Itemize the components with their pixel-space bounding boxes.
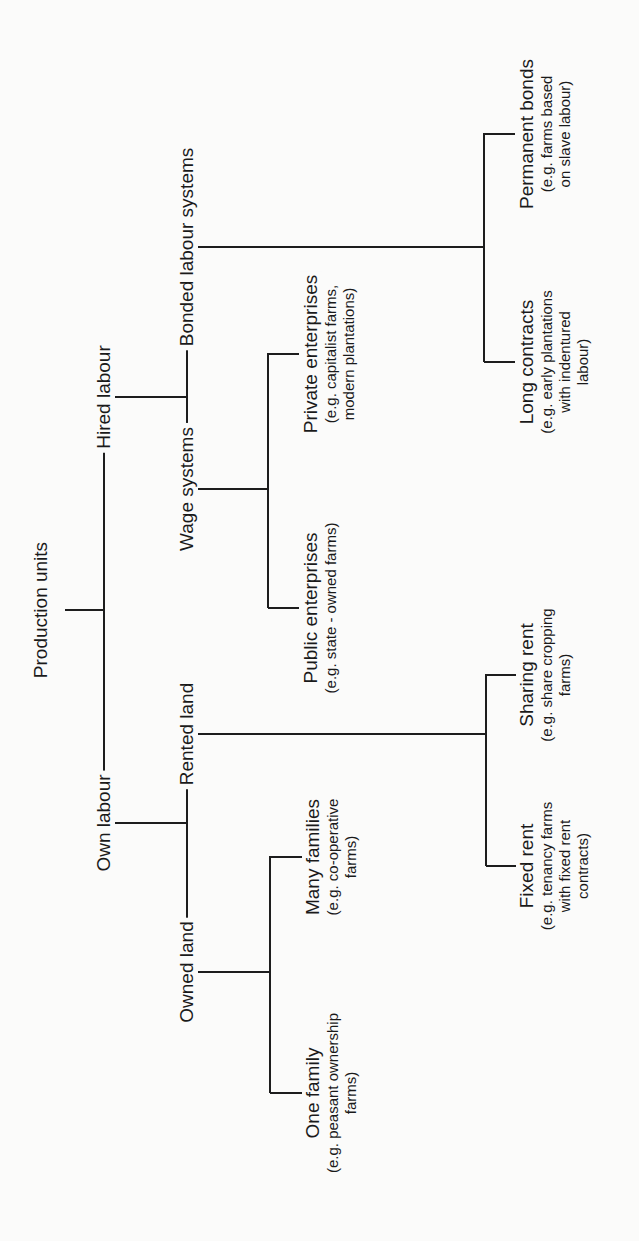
node-example: (e.g. peasant ownership farms): [324, 1013, 360, 1173]
connector-owned-land-bar: [269, 856, 271, 1093]
node-title: Fixed rent: [516, 820, 538, 912]
node-example: (e.g. state - owned farms): [322, 523, 340, 694]
connector-level1-bar: [103, 395, 105, 823]
node-example: (e.g. capitalist farms, modern plantatio…: [322, 271, 358, 437]
node-one-family: One family (e.g. peasant ownership farms…: [302, 1013, 360, 1173]
node-title: Hired labour: [93, 341, 115, 453]
node-title: Permanent bonds: [516, 55, 538, 213]
connector-long-contracts-stub: [484, 361, 515, 363]
node-fixed-rent: Fixed rent (e.g. tenancy farms with fixe…: [516, 802, 592, 930]
node-title: One family: [302, 1044, 324, 1143]
node-example: (e.g. farms based on slave labour): [538, 55, 574, 213]
connector-rented-land-bar: [485, 674, 487, 866]
node-title: Wage systems: [176, 423, 198, 555]
node-private-enterprises: Private enterprises (e.g. capitalist far…: [300, 271, 358, 437]
connector-root-stub: [65, 609, 105, 611]
connector-one-family-stub: [270, 1092, 302, 1094]
production-units-tree-diagram: Production units Own labour Hired labour…: [0, 0, 639, 1241]
connector-own-labour-drop: [104, 822, 188, 824]
node-title: Public enterprises: [300, 528, 322, 687]
connector-hired-labour-drop: [104, 396, 188, 398]
connector-bonded-labour-drop: [187, 246, 485, 248]
node-title: Private enterprises: [300, 271, 322, 437]
node-example: (e.g. early plantations with indentured …: [538, 290, 592, 433]
connector-public-enterprises-stub: [268, 607, 299, 609]
node-permanent-bonds: Permanent bonds (e.g. farms based on sla…: [516, 55, 574, 213]
node-production-units: Production units: [30, 538, 52, 682]
node-owned-land: Owned land: [176, 917, 198, 1026]
node-title: Rented land: [176, 679, 198, 789]
node-example: (e.g. share cropping farms): [538, 608, 574, 741]
node-title: Many families: [302, 795, 324, 919]
connector-permanent-bonds-stub: [484, 133, 515, 135]
node-long-contracts: Long contracts (e.g. early plantations w…: [516, 290, 592, 433]
node-own-labour: Own labour: [93, 770, 115, 875]
node-many-families: Many families (e.g. co-operative farms): [302, 795, 360, 919]
node-bonded-labour-systems: Bonded labour systems: [176, 144, 198, 351]
node-example: (e.g. co-operative farms): [324, 795, 360, 919]
node-title: Bonded labour systems: [176, 144, 198, 351]
node-title: Production units: [30, 538, 52, 682]
connector-private-enterprises-stub: [268, 353, 299, 355]
connector-bonded-labour-bar: [483, 133, 485, 362]
node-wage-systems: Wage systems: [176, 423, 198, 555]
connector-many-families-stub: [270, 856, 302, 858]
node-rented-land: Rented land: [176, 679, 198, 789]
node-title: Sharing rent: [516, 619, 538, 731]
connector-wage-systems-drop: [187, 488, 269, 490]
connector-wage-systems-bar: [267, 353, 269, 608]
node-example: (e.g. tenancy farms with fixed rent cont…: [538, 802, 592, 930]
connector-rented-land-drop: [187, 733, 487, 735]
node-sharing-rent: Sharing rent (e.g. share cropping farms): [516, 608, 574, 741]
node-hired-labour: Hired labour: [93, 341, 115, 453]
connector-owned-land-drop: [187, 971, 271, 973]
connector-fixed-rent-stub: [486, 865, 516, 867]
node-title: Owned land: [176, 917, 198, 1026]
node-public-enterprises: Public enterprises (e.g. state - owned f…: [300, 523, 340, 694]
connector-sharing-rent-stub: [486, 674, 516, 676]
node-title: Long contracts: [516, 296, 538, 429]
node-title: Own labour: [93, 770, 115, 875]
